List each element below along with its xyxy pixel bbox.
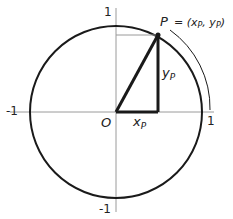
unit-circle-diagram: 1 -1 -1 1 O xP yP P = (xP, yP) <box>0 0 233 219</box>
y-pos-label: 1 <box>104 5 112 19</box>
radius-line <box>116 35 158 112</box>
point-p-coordinates: = (xP, yP) <box>174 16 225 30</box>
y-neg-label: -1 <box>99 202 111 216</box>
x-pos-label: 1 <box>207 114 215 128</box>
origin-label: O <box>101 115 111 130</box>
point-p-dot <box>156 33 161 38</box>
yp-label: yP <box>161 65 176 82</box>
x-neg-label: -1 <box>6 104 18 118</box>
xp-label: xP <box>132 114 147 131</box>
point-p-label: P <box>160 14 168 29</box>
